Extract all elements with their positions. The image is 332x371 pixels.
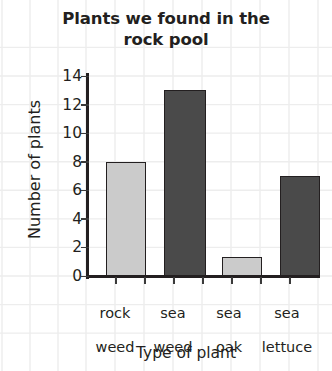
- y-tick-label: 2: [22, 237, 82, 257]
- bar-rock-weed[interactable]: [106, 162, 146, 276]
- bar-sea-oak[interactable]: [222, 257, 262, 276]
- category-line-1: rock: [100, 305, 131, 321]
- chart-title-line-1: Plants we found in the: [62, 9, 270, 28]
- x-tick-mark: [173, 277, 175, 284]
- plot-area: [88, 76, 318, 276]
- x-tick-mark: [289, 277, 291, 284]
- category-line-1: sea: [274, 305, 299, 321]
- x-tick-mark: [231, 277, 233, 284]
- chart-title-line-2: rock pool: [123, 30, 208, 49]
- x-tick-mark: [144, 277, 146, 284]
- category-line-1: sea: [160, 305, 185, 321]
- y-tick-label: 12: [22, 95, 82, 115]
- y-tick-label: 6: [22, 180, 82, 200]
- bar-sea-weed[interactable]: [164, 90, 206, 276]
- category-line-1: sea: [216, 305, 241, 321]
- y-tick-label: 4: [22, 209, 82, 229]
- y-tick-label: 10: [22, 123, 82, 143]
- bar-sea-lettuce[interactable]: [280, 176, 320, 276]
- x-tick-mark: [115, 277, 117, 284]
- y-tick-label: 14: [22, 66, 82, 86]
- bar-chart: Plants we found in the rock pool Number …: [0, 0, 332, 371]
- x-axis-title: Type of plant: [56, 344, 316, 362]
- x-tick-mark: [260, 277, 262, 284]
- chart-title: Plants we found in the rock pool: [16, 8, 316, 50]
- x-tick-mark: [202, 277, 204, 284]
- y-tick-label: 8: [22, 152, 82, 172]
- y-tick-label: 0: [22, 266, 82, 286]
